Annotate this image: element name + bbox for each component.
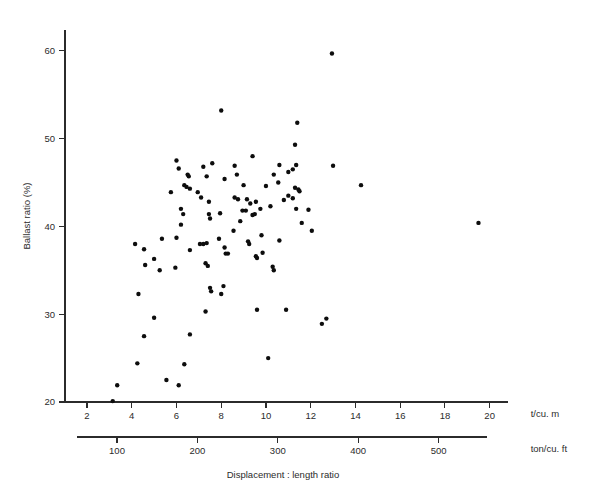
- data-point: [291, 196, 295, 200]
- data-point: [241, 183, 245, 187]
- data-point: [174, 158, 178, 162]
- data-point: [218, 211, 222, 215]
- data-point: [179, 207, 183, 211]
- data-point: [259, 233, 263, 237]
- x-axis-secondary-tick-label: 100: [109, 445, 125, 456]
- data-point: [293, 143, 297, 147]
- data-point: [231, 229, 235, 233]
- y-axis-title: Ballast ratio (%): [21, 182, 32, 249]
- data-point: [238, 219, 242, 223]
- data-point: [207, 212, 211, 216]
- data-point: [219, 108, 223, 112]
- data-point: [297, 189, 301, 193]
- data-point: [277, 238, 281, 242]
- data-point: [177, 383, 181, 387]
- data-point: [204, 241, 208, 245]
- data-point: [300, 221, 304, 225]
- data-point: [143, 263, 147, 267]
- data-point: [142, 247, 146, 251]
- data-point: [152, 257, 156, 261]
- data-point: [206, 264, 210, 268]
- data-point: [174, 236, 178, 240]
- data-point: [142, 334, 146, 338]
- data-point: [222, 177, 226, 181]
- data-point: [208, 216, 212, 220]
- data-point: [210, 161, 214, 165]
- x-axis-tick-label: 12: [305, 410, 316, 421]
- x-axis-tick-label: 14: [350, 410, 361, 421]
- data-point: [221, 284, 225, 288]
- plot-area: 2030405060Ballast ratio (%)2468101214161…: [21, 30, 567, 480]
- y-axis-tick-label: 30: [44, 309, 55, 320]
- x-axis-tick-label: 10: [261, 410, 272, 421]
- data-point: [324, 316, 328, 320]
- x-axis-tick-label: 20: [484, 410, 495, 421]
- data-point: [282, 198, 286, 202]
- data-point: [266, 356, 270, 360]
- x-axis-title: Displacement : length ratio: [227, 469, 339, 480]
- y-axis-tick-label: 20: [44, 396, 55, 407]
- data-point: [111, 399, 115, 403]
- data-point: [158, 268, 162, 272]
- x-axis-tick-label: 6: [174, 410, 179, 421]
- data-point: [250, 154, 254, 158]
- data-point: [476, 221, 480, 225]
- data-point: [272, 268, 276, 272]
- data-point: [219, 292, 223, 296]
- data-point: [177, 166, 181, 170]
- data-point: [232, 164, 236, 168]
- data-point: [294, 207, 298, 211]
- data-point: [253, 212, 257, 216]
- data-point: [196, 190, 200, 194]
- data-point: [272, 172, 276, 176]
- x-axis-secondary-tick-label: 200: [189, 445, 205, 456]
- data-point: [310, 229, 314, 233]
- data-point: [115, 383, 119, 387]
- data-point: [173, 265, 177, 269]
- scatter-plot-figure: 2030405060Ballast ratio (%)2468101214161…: [0, 0, 598, 499]
- data-point: [247, 242, 251, 246]
- data-point: [268, 204, 272, 208]
- data-point: [286, 193, 290, 197]
- y-axis-tick-label: 60: [44, 45, 55, 56]
- data-point: [217, 236, 221, 240]
- data-point: [133, 242, 137, 246]
- data-point: [359, 183, 363, 187]
- data-point: [201, 165, 205, 169]
- data-point: [188, 332, 192, 336]
- data-point: [207, 200, 211, 204]
- x-axis-tick-label: 2: [84, 410, 89, 421]
- data-point: [248, 201, 252, 205]
- data-point: [264, 184, 268, 188]
- data-point: [188, 248, 192, 252]
- data-point: [291, 167, 295, 171]
- y-axis-tick-label: 40: [44, 221, 55, 232]
- data-point: [204, 174, 208, 178]
- data-point: [152, 316, 156, 320]
- x-axis-secondary-tick-label: 400: [350, 445, 366, 456]
- x-axis-secondary-tick-label: 300: [270, 445, 286, 456]
- data-point: [203, 309, 207, 313]
- data-point: [277, 163, 281, 167]
- data-point: [187, 174, 191, 178]
- x-axis-tick-label: 4: [129, 410, 134, 421]
- data-point: [209, 289, 213, 293]
- x-axis-tick-label: 8: [219, 410, 224, 421]
- data-point: [164, 378, 168, 382]
- data-point: [286, 170, 290, 174]
- data-point: [254, 200, 258, 204]
- x-axis-secondary-tick-label: 500: [431, 445, 447, 456]
- data-point: [258, 207, 262, 211]
- data-point: [255, 308, 259, 312]
- x-axis-tick-label: 16: [395, 410, 406, 421]
- data-point: [295, 121, 299, 125]
- data-point: [255, 256, 259, 260]
- data-point: [181, 212, 185, 216]
- data-point: [276, 180, 280, 184]
- data-point: [320, 322, 324, 326]
- data-point: [236, 197, 240, 201]
- data-point: [182, 362, 186, 366]
- data-point: [235, 172, 239, 176]
- data-point: [244, 208, 248, 212]
- data-point: [331, 164, 335, 168]
